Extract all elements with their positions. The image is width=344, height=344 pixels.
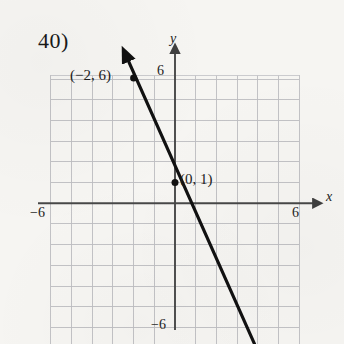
problem-number-label: 40) (38, 30, 69, 52)
x-axis-tick-label-6: 6 (292, 206, 299, 220)
point-label-0-1: (0, 1) (180, 172, 213, 187)
worksheet-graph-page: 40) (−2, 6) (0, 1) y x 6 −6 −6 6 (0, 0, 344, 344)
y-axis-tick-label-neg6: −6 (151, 318, 166, 332)
y-axis-label: y (170, 32, 176, 46)
x-axis-label: x (326, 190, 332, 204)
plotted-line (128, 60, 255, 344)
x-axis-tick-label-neg6: −6 (30, 206, 45, 220)
axis-lines (38, 52, 314, 330)
point-marker-b (172, 179, 179, 186)
point-marker-a (130, 75, 137, 82)
point-label-minus2-6: (−2, 6) (70, 68, 111, 83)
y-axis-tick-label-6: 6 (157, 64, 164, 78)
